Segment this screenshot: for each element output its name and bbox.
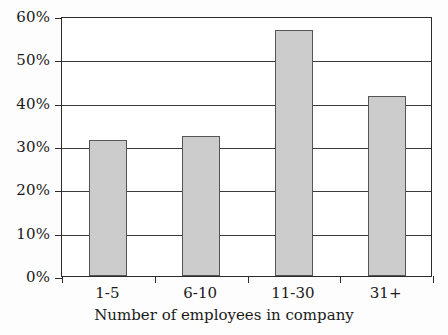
x-axis-category-label: 6-10 <box>183 284 217 302</box>
bar <box>89 140 127 277</box>
x-axis-tick <box>248 276 249 283</box>
x-axis-title: Number of employees in company <box>0 306 448 324</box>
y-axis-tick-label: 50% <box>0 51 50 69</box>
bar <box>275 30 313 276</box>
y-axis-tick-label: 60% <box>0 8 50 26</box>
y-axis-tick <box>55 278 62 279</box>
x-axis-tick <box>155 276 156 283</box>
bar <box>368 96 406 276</box>
x-axis-labels: 1-56-1011-3031+ <box>61 284 432 306</box>
x-axis-category-label: 1-5 <box>95 284 119 302</box>
y-axis-tick <box>55 61 62 62</box>
x-axis-tick <box>340 276 341 283</box>
y-axis-tick-label: 30% <box>0 138 50 156</box>
x-axis-category-label: 31+ <box>370 284 402 302</box>
y-axis-tick-label: 0% <box>0 268 50 286</box>
y-axis-tick <box>55 191 62 192</box>
y-axis-tick-label: 40% <box>0 95 50 113</box>
y-axis-tick <box>55 105 62 106</box>
x-axis-category-label: 11-30 <box>271 284 314 302</box>
y-axis-tick <box>55 235 62 236</box>
bar-chart: 0%10%20%30%40%50%60% 1-56-1011-3031+ Num… <box>0 0 448 335</box>
y-axis-tick-label: 20% <box>0 181 50 199</box>
gridline <box>62 61 431 62</box>
y-axis-tick <box>55 18 62 19</box>
x-axis-tick <box>433 276 434 283</box>
x-axis-tick <box>62 276 63 283</box>
bar <box>182 136 220 276</box>
y-axis-tick-label: 10% <box>0 225 50 243</box>
y-axis-tick <box>55 148 62 149</box>
plot-area <box>61 17 432 277</box>
